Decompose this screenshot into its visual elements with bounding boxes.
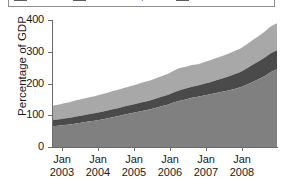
y-tick-label: 0 (4, 141, 44, 152)
y-tick-label: 200 (4, 78, 44, 89)
figure-canvas: Households Non-financial corporations Fi… (0, 0, 282, 187)
y-tick-label: 100 (4, 109, 44, 120)
stacked-area-chart (52, 20, 277, 147)
legend-swatch-icon (73, 0, 86, 1)
x-tick (62, 147, 63, 151)
legend-label: Non-financial corporations (89, 0, 170, 1)
legend-item-1: Non-financial corporations (73, 0, 170, 1)
legend-item-2: Financial institutions (176, 0, 255, 1)
x-tick-label: Jan2008 (219, 153, 265, 179)
x-tick (170, 147, 171, 151)
y-tick (48, 115, 52, 116)
x-tick (242, 147, 243, 151)
y-axis-line (52, 20, 53, 148)
legend-label: Financial institutions (192, 0, 255, 1)
y-tick-label: 400 (4, 14, 44, 25)
plot-area (52, 20, 277, 147)
x-tick (206, 147, 207, 151)
legend-swatch-icon (176, 0, 189, 1)
x-axis-line (52, 147, 278, 148)
x-tick (134, 147, 135, 151)
y-tick-label: 300 (4, 46, 44, 57)
y-tick (48, 20, 52, 21)
y-tick (48, 52, 52, 53)
y-tick (48, 84, 52, 85)
y-tick (48, 147, 52, 148)
x-tick (98, 147, 99, 151)
legend-label: Households (30, 0, 67, 1)
chart-legend: Households Non-financial corporations Fi… (8, 0, 275, 7)
